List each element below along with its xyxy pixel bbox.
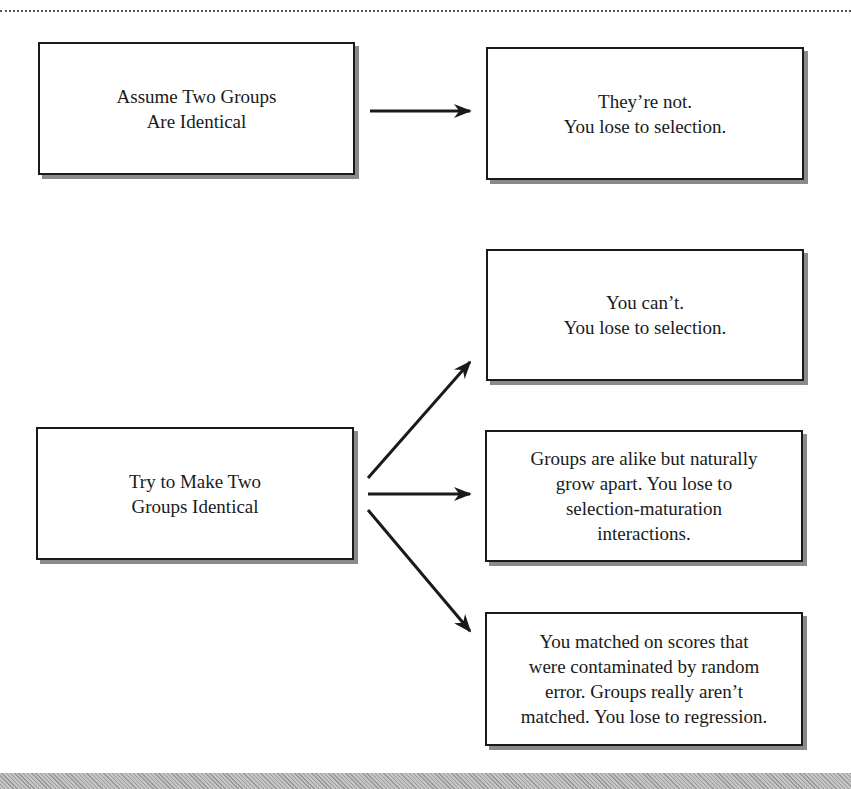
box-theyre-not: They’re not. You lose to selection.	[486, 47, 804, 180]
box-text-line: You can’t.	[564, 290, 727, 315]
box-text-line: You matched on scores that	[521, 629, 767, 654]
box-text-line: grow apart. You lose to	[531, 471, 758, 496]
bottom-gray-band	[0, 773, 851, 789]
box-text-line: You lose to selection.	[564, 315, 727, 340]
box-text-line: interactions.	[531, 521, 758, 546]
box-text-line: Groups are alike but naturally	[531, 446, 758, 471]
box-regression: You matched on scores that were contamin…	[485, 612, 803, 746]
box-grow-apart: Groups are alike but naturally grow apar…	[485, 430, 803, 562]
box-try-to-make-identical: Try to Make Two Groups Identical	[36, 427, 354, 560]
box-text-line: You lose to selection.	[564, 114, 727, 139]
box-text-line: Try to Make Two	[129, 469, 261, 494]
box-you-cant: You can’t. You lose to selection.	[486, 249, 804, 381]
box-text-line: selection-maturation	[531, 496, 758, 521]
box-text-line: Groups Identical	[129, 494, 261, 519]
box-text-line: They’re not.	[564, 89, 727, 114]
box-assume-identical: Assume Two Groups Are Identical	[38, 42, 355, 175]
box-text-line: error. Groups really aren’t	[521, 679, 767, 704]
box-text-line: Assume Two Groups	[117, 84, 277, 109]
arrow-try-to-regression	[368, 510, 470, 631]
arrow-try-to-you-cant	[368, 362, 470, 478]
box-text-line: Are Identical	[117, 109, 277, 134]
box-text-line: matched. You lose to regression.	[521, 704, 767, 729]
box-text-line: were contaminated by random	[521, 654, 767, 679]
